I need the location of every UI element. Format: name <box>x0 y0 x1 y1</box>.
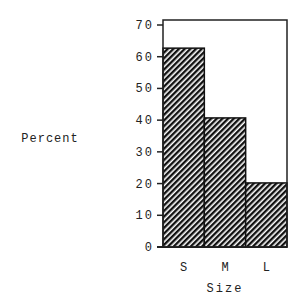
y-axis-title: Percent <box>21 132 78 146</box>
y-tick-label: 40 <box>136 114 154 128</box>
x-tick-label-m: M <box>221 261 228 275</box>
y-tick-label: 10 <box>136 209 154 223</box>
bar-s <box>163 48 204 247</box>
y-tick-label: 30 <box>136 146 154 160</box>
y-tick-label: 0 <box>145 241 154 255</box>
bar-chart: 010203040506070 SML Size Percent <box>0 0 302 307</box>
bars <box>163 48 287 247</box>
y-tick-label: 50 <box>136 82 154 96</box>
x-tick-label-l: L <box>263 261 270 275</box>
y-tick-label: 60 <box>136 51 154 65</box>
x-axis-title: Size <box>207 282 244 296</box>
x-tick-label-s: S <box>180 261 187 275</box>
bar-m <box>204 118 245 247</box>
y-tick-label: 20 <box>136 178 154 192</box>
x-axis-labels: SML <box>180 261 270 275</box>
bar-l <box>246 183 287 247</box>
y-tick-label: 70 <box>136 19 154 33</box>
